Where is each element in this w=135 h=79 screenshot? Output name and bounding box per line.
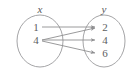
domain-oval xyxy=(17,15,63,67)
domain-element-4: 4 xyxy=(33,34,39,46)
range-element-6: 6 xyxy=(102,47,108,59)
arrow-4-to-6 xyxy=(42,41,95,53)
domain-element-1: 1 xyxy=(33,21,39,33)
range-element-2: 2 xyxy=(102,21,108,33)
mapping-diagram: x y 1 4 2 4 6 xyxy=(0,0,135,79)
mapping-diagram-canvas: x y 1 4 2 4 6 xyxy=(0,0,135,79)
range-element-4: 4 xyxy=(102,34,108,46)
range-set-label: y xyxy=(101,3,107,15)
domain-set-label: x xyxy=(37,3,43,15)
arrow-4-to-2 xyxy=(42,28,95,40)
